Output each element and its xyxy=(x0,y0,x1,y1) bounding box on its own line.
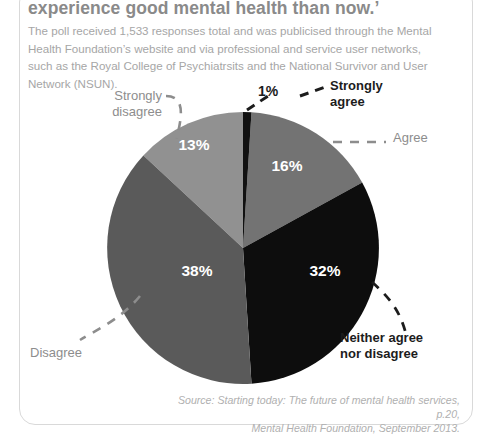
slice-value-agree: 16% xyxy=(257,157,317,175)
leader-line-neither xyxy=(372,282,406,334)
pie-label-neither-line1: Neither agree xyxy=(340,330,470,346)
pie-chart-svg xyxy=(0,0,490,447)
pie-label-neither-line2: nor disagree xyxy=(340,346,470,362)
pie-label-agree: Agree xyxy=(393,130,473,146)
pie-label-strongly-agree-line1: Strongly xyxy=(330,78,425,94)
source-line-1: Source: Starting today: The future of me… xyxy=(160,393,460,421)
pie-label-strongly-agree: Strongly agree xyxy=(330,78,425,109)
pie-label-disagree: Disagree xyxy=(30,345,130,361)
slice-value-strongly-agree: 1% xyxy=(258,84,302,100)
source-attribution: Source: Starting today: The future of me… xyxy=(160,393,460,435)
pie-label-strongly-disagree-line1: Strongly xyxy=(57,88,162,104)
pie-label-strongly-disagree: Strongly disagree xyxy=(57,88,162,119)
slice-value-strongly-disagree: 13% xyxy=(164,136,224,154)
source-line-2: Mental Health Foundation, September 2013… xyxy=(160,421,460,435)
pie-label-strongly-disagree-line2: disagree xyxy=(57,104,162,120)
pie-chart: 16% 32% 38% 13% 1% Strongly agree Agree … xyxy=(0,0,490,447)
pie-label-strongly-agree-line2: agree xyxy=(330,94,425,110)
figure-content: experience good mental health than now.’… xyxy=(0,0,490,447)
leader-line-strongly-agree-2 xyxy=(300,86,328,96)
pie-label-neither: Neither agree nor disagree xyxy=(340,330,470,361)
slice-value-disagree: 38% xyxy=(167,262,227,280)
slice-value-neither: 32% xyxy=(295,262,355,280)
